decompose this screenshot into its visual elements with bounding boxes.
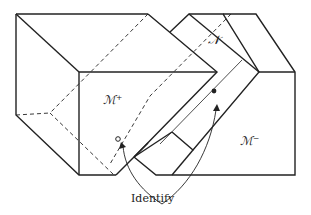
diagram-canvas: ℳ⁺ 𝒩 ℳ⁻ Identify — [0, 0, 311, 215]
label-identify: Identify — [131, 192, 175, 205]
label-m-minus: ℳ⁻ — [240, 134, 259, 148]
label-m-plus: ℳ⁺ — [103, 93, 122, 107]
filled-point — [212, 89, 217, 94]
open-point — [116, 137, 121, 142]
arrowhead-icon — [213, 104, 220, 111]
identify-arrows — [123, 110, 216, 204]
